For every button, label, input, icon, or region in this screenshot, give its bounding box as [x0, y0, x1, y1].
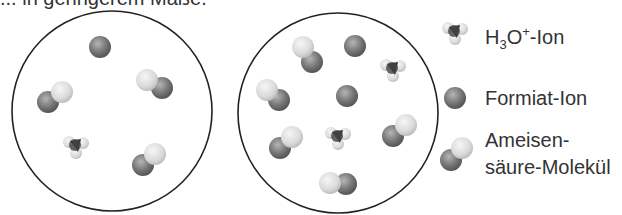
right-solution — [238, 13, 438, 213]
formiat-sphere — [444, 87, 466, 109]
formiat-ion — [89, 36, 111, 58]
formiat-ion — [444, 87, 466, 109]
formiat-sphere — [89, 36, 111, 58]
formiat-sphere — [344, 35, 366, 57]
legend-formiat-label: Formiat-Ion — [485, 86, 587, 110]
ameisensaeure-molecule — [132, 143, 166, 176]
ameisensaeure-molecule — [440, 137, 473, 171]
ameisensaeure-molecule — [256, 79, 290, 111]
hydrogen-sphere — [256, 79, 278, 101]
formiat-sphere — [336, 85, 358, 107]
formiat-ion — [336, 85, 358, 107]
h3o-ion — [442, 22, 468, 45]
hydrogen-sphere — [292, 36, 314, 58]
formiat-ion — [344, 35, 366, 57]
hydrogen-sphere — [395, 114, 417, 136]
ameisensaeure-molecule — [382, 114, 417, 147]
legend-h3o-label: H3O+-Ion — [485, 20, 564, 57]
hydrogen-sphere — [51, 81, 73, 103]
hydrogen-sphere — [144, 143, 166, 165]
ameisensaeure-molecule — [319, 172, 357, 195]
hydrogen-sphere — [319, 172, 341, 194]
left-solution — [12, 11, 212, 211]
h3o-legend-icon — [442, 22, 468, 45]
ameisensaeure-molecule — [269, 126, 303, 159]
hydrogen-sphere — [136, 69, 158, 91]
ameisensaeure-molecule — [37, 81, 73, 113]
hydrogen-sphere — [451, 137, 473, 159]
ameisen-legend-icon — [440, 137, 473, 171]
h3o-ion — [63, 136, 89, 159]
ameisensaeure-molecule — [136, 69, 173, 99]
hydrogen-sphere — [281, 126, 303, 148]
formiat-legend-icon — [444, 87, 466, 109]
legend-ameisen-label-line1: Ameisen- — [485, 128, 569, 152]
legend-ameisen-label-line2: säure-Molekül — [485, 155, 611, 179]
h3o-ion — [325, 127, 351, 150]
ameisensaeure-molecule — [292, 36, 323, 73]
h3o-ion — [380, 59, 406, 82]
